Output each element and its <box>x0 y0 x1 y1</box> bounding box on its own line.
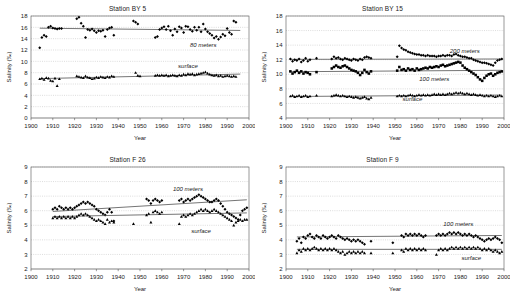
data-point <box>448 247 451 250</box>
data-point <box>339 251 342 254</box>
x-tick-label: 1950 <box>388 274 402 280</box>
data-point <box>308 58 311 61</box>
data-point <box>84 212 87 215</box>
plot-area-f-9: 2345678919001910192019301940195019601970… <box>255 151 510 302</box>
data-point <box>298 237 301 240</box>
x-tick-label: 1920 <box>68 274 82 280</box>
data-point <box>217 38 220 41</box>
data-point <box>404 233 407 236</box>
data-point <box>405 69 408 72</box>
y-tick-label: 4 <box>24 93 28 99</box>
data-point <box>341 250 344 253</box>
data-point <box>435 253 438 256</box>
data-point <box>328 247 331 250</box>
data-point <box>147 212 150 215</box>
data-point <box>73 217 76 220</box>
data-point <box>75 17 78 20</box>
x-tick-label: 1920 <box>68 123 82 129</box>
data-point <box>99 219 102 222</box>
data-point <box>459 91 462 94</box>
data-point <box>339 235 342 238</box>
x-tick-label: 1940 <box>112 123 126 129</box>
data-point <box>195 29 198 32</box>
data-point <box>195 211 198 214</box>
data-point <box>182 31 185 34</box>
y-tick-label: 5 <box>279 222 283 228</box>
data-point <box>490 72 493 75</box>
data-point <box>402 68 405 71</box>
data-point <box>56 84 59 87</box>
data-point <box>417 233 420 236</box>
data-point <box>483 77 486 80</box>
x-tick-label: 1960 <box>410 123 424 129</box>
data-point <box>370 251 373 254</box>
data-point <box>335 249 338 252</box>
data-point <box>481 249 484 252</box>
series-annotation: 100 meters <box>173 186 203 192</box>
data-point <box>173 28 176 31</box>
y-tick-label: 2 <box>279 266 283 272</box>
data-point <box>241 219 244 222</box>
data-point <box>232 224 235 227</box>
data-point <box>328 235 331 238</box>
x-tick-label: 1970 <box>177 274 191 280</box>
data-point <box>356 250 359 253</box>
data-point <box>341 237 344 240</box>
data-point <box>86 214 89 217</box>
data-point <box>324 247 327 250</box>
data-point <box>206 30 209 33</box>
salinity-figure: Station BY 5 024681012141618190019101920… <box>0 0 510 302</box>
x-tick-label: 1900 <box>24 274 38 280</box>
data-point <box>56 208 59 211</box>
x-tick-label: 1940 <box>367 274 381 280</box>
data-point <box>326 237 329 240</box>
data-point <box>178 222 181 225</box>
y-tick-label: 3 <box>24 252 28 258</box>
data-point <box>99 211 102 214</box>
data-point <box>298 57 301 60</box>
data-point <box>348 67 351 70</box>
data-point <box>110 26 113 29</box>
data-point <box>160 211 163 214</box>
data-point <box>101 212 104 215</box>
x-tick-label: 1950 <box>133 274 147 280</box>
data-point <box>300 241 303 244</box>
data-point <box>431 66 434 69</box>
y-tick-label: 6 <box>279 208 283 214</box>
data-point <box>319 247 322 250</box>
data-point <box>75 75 78 78</box>
data-point <box>232 215 235 218</box>
data-point <box>56 28 59 31</box>
series-annotation: surface <box>178 63 198 69</box>
series-annotation: 80 meters <box>190 42 217 48</box>
data-point <box>56 217 59 220</box>
data-point <box>38 46 41 49</box>
y-tick-label: 5 <box>24 222 28 228</box>
data-point <box>483 247 486 250</box>
data-point <box>213 37 216 40</box>
data-point <box>332 235 335 238</box>
data-point <box>97 209 100 212</box>
x-tick-label: 1960 <box>155 123 169 129</box>
data-point <box>77 75 80 78</box>
data-point <box>215 198 218 201</box>
data-point <box>158 28 161 31</box>
data-point <box>466 68 469 71</box>
panel-station-f-26: Station F 26 234567891900191019201930194… <box>0 151 255 302</box>
y-tick-label: 9 <box>279 164 283 170</box>
data-point <box>93 218 96 221</box>
data-point <box>424 249 427 252</box>
data-point <box>496 250 499 253</box>
data-point <box>413 233 416 236</box>
data-point <box>335 237 338 240</box>
data-point <box>363 69 366 72</box>
x-tick-label: 1910 <box>301 274 315 280</box>
x-tick-label: 1980 <box>199 123 213 129</box>
data-point <box>197 26 200 29</box>
data-point <box>344 64 347 67</box>
data-point <box>302 72 305 75</box>
series-annotation: 200 meters <box>449 48 480 54</box>
y-tick-label: 6 <box>279 101 283 107</box>
y-tick-label: 6 <box>24 81 28 87</box>
data-point <box>156 211 159 214</box>
